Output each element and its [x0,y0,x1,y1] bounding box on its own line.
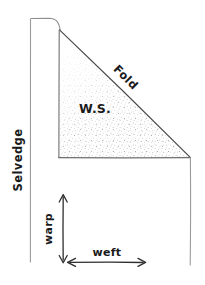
weft-label: weft [93,246,122,259]
weft-measure-arrow: weft [68,246,146,266]
diagram-canvas: Selvedge Fold W.S. warp weft [0,0,205,285]
fabric-fold-diagram: Selvedge Fold W.S. warp weft [0,0,205,285]
warp-measure-arrow: warp [42,195,67,263]
selvedge-label: Selvedge [11,129,25,192]
wrong-side-label: W.S. [79,101,111,116]
warp-label: warp [42,213,55,245]
fabric-top-edge [31,18,60,29]
